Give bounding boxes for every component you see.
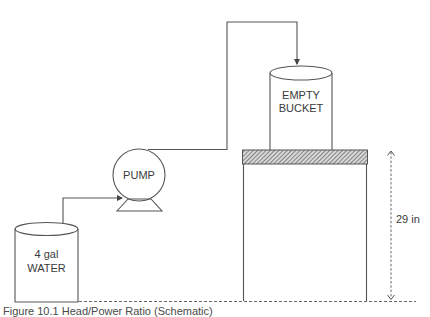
pump: PUMP <box>113 149 165 211</box>
empty-bucket: EMPTY BUCKET <box>270 66 332 150</box>
inlet-pipe <box>63 198 122 223</box>
height-dimension: 29 in <box>388 151 420 300</box>
height-dimension-label: 29 in <box>396 213 420 225</box>
table-stand <box>244 164 367 301</box>
water-tank: 4 gal WATER <box>15 223 78 303</box>
water-tank-label-1: 4 gal <box>35 248 59 260</box>
bucket-label-1: EMPTY <box>282 89 321 101</box>
pump-label: PUMP <box>123 169 155 181</box>
water-tank-label-2: WATER <box>27 262 66 274</box>
bucket-label-2: BUCKET <box>279 102 324 114</box>
figure-caption: Figure 10.1 Head/Power Ratio (Schematic) <box>3 305 213 317</box>
outlet-pipe <box>148 22 297 150</box>
platform <box>243 150 368 164</box>
